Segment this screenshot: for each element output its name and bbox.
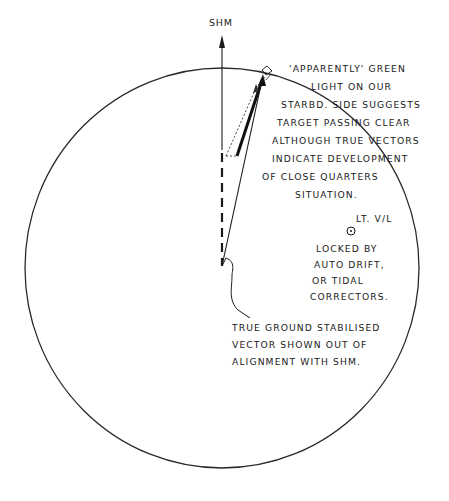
true-vector-line [222, 80, 262, 266]
svg-text:VECTOR SHOWN OUT OF: VECTOR SHOWN OUT OF [232, 339, 367, 350]
own-ship-leader-line [222, 258, 250, 318]
shm-arrow-head-icon [219, 35, 225, 48]
svg-text:OF CLOSE QUARTERS: OF CLOSE QUARTERS [262, 171, 379, 182]
svg-text:ALTHOUGH TRUE VECTORS: ALTHOUGH TRUE VECTORS [272, 135, 420, 146]
svg-text:SITUATION.: SITUATION. [295, 189, 358, 200]
svg-text:TARGET PASSING CLEAR: TARGET PASSING CLEAR [276, 117, 411, 128]
light-vessel-symbol [347, 227, 355, 235]
svg-text:OR TIDAL: OR TIDAL [312, 275, 364, 286]
svg-text:LOCKED BY: LOCKED BY [316, 243, 378, 254]
svg-text:AUTO DRIFT,: AUTO DRIFT, [314, 259, 385, 270]
radar-diagram: SHM LT. V/L 'APPARENTLY' GREEN LIGHT ON … [0, 0, 449, 501]
svg-text:STARBD. SIDE SUGGESTS: STARBD. SIDE SUGGESTS [281, 99, 421, 110]
thick-vector-line [237, 80, 262, 156]
svg-text:CORRECTORS.: CORRECTORS. [310, 291, 389, 302]
svg-text:INDICATE DEVELOPMENT: INDICATE DEVELOPMENT [272, 153, 408, 164]
svg-text:'APPARENTLY' GREEN: 'APPARENTLY' GREEN [289, 63, 406, 74]
locked-annotation: LOCKED BY AUTO DRIFT, OR TIDAL CORRECTOR… [310, 243, 389, 302]
svg-text:TRUE GROUND STABILISED: TRUE GROUND STABILISED [231, 322, 381, 333]
shm-label: SHM [209, 17, 233, 28]
svg-text:ALIGNMENT WITH SHM.: ALIGNMENT WITH SHM. [232, 356, 361, 367]
green-light-annotation: 'APPARENTLY' GREEN LIGHT ON OUR STARBD. … [262, 63, 421, 200]
ship-head-marker [219, 35, 225, 266]
true-ground-annotation: TRUE GROUND STABILISED VECTOR SHOWN OUT … [231, 322, 381, 367]
light-vessel-label: LT. V/L [356, 213, 392, 224]
svg-text:LIGHT ON OUR: LIGHT ON OUR [311, 81, 392, 92]
